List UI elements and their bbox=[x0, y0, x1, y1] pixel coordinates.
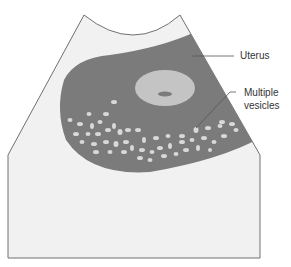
ultrasound-diagram bbox=[0, 0, 291, 267]
label-vesicles-line1: Multiple bbox=[244, 87, 278, 98]
label-vesicles-line2: vesicles bbox=[244, 100, 280, 111]
sac-center bbox=[158, 92, 172, 97]
gestational-sac bbox=[135, 70, 195, 106]
label-uterus: Uterus bbox=[240, 50, 269, 61]
